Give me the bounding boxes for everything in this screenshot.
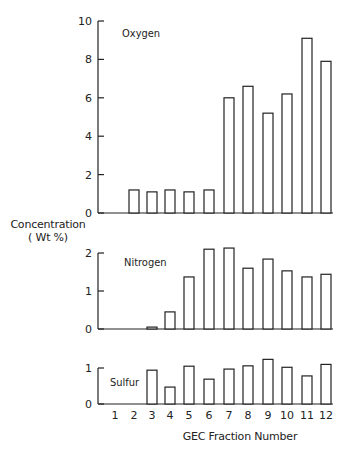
bar-sulfur-11 <box>302 376 312 404</box>
panel-oxygen: 0246810Oxygen <box>78 15 333 220</box>
y-tick-label: 0 <box>85 398 92 411</box>
x-tick-label: 11 <box>300 409 314 422</box>
panel-sulfur: 01Sulfur <box>85 359 333 411</box>
y-axis-label: Concentration ( Wt %) <box>8 218 88 244</box>
bar-oxygen-3 <box>147 192 157 213</box>
bar-oxygen-10 <box>282 94 292 213</box>
bar-nitrogen-3 <box>147 327 157 329</box>
bar-nitrogen-8 <box>243 268 253 329</box>
bar-oxygen-2 <box>129 190 139 213</box>
bar-oxygen-9 <box>263 113 273 213</box>
bar-nitrogen-11 <box>302 277 312 329</box>
x-tick-label: 9 <box>265 409 272 422</box>
x-tick-label: 6 <box>206 409 213 422</box>
panel-nitrogen: 012Nitrogen <box>85 247 333 336</box>
y-tick-label: 1 <box>85 285 92 298</box>
x-tick-labels: 123456789101112 <box>112 409 334 422</box>
y-axis-label-line2: ( Wt %) <box>8 231 88 244</box>
x-tick-label: 5 <box>186 409 193 422</box>
y-tick-label: 8 <box>85 53 92 66</box>
bar-nitrogen-5 <box>184 277 194 329</box>
bar-oxygen-8 <box>243 86 253 213</box>
bar-oxygen-12 <box>321 61 331 213</box>
bar-sulfur-9 <box>263 359 273 404</box>
y-tick-label: 10 <box>78 15 92 28</box>
bar-sulfur-12 <box>321 364 331 404</box>
panel-label: Sulfur <box>110 376 140 389</box>
x-tick-label: 12 <box>319 409 333 422</box>
bar-nitrogen-7 <box>224 248 234 329</box>
bar-nitrogen-9 <box>263 259 273 329</box>
panel-label: Nitrogen <box>124 256 167 269</box>
y-tick-label: 2 <box>85 169 92 182</box>
y-tick-label: 2 <box>85 247 92 260</box>
bar-oxygen-7 <box>224 98 234 213</box>
bar-sulfur-6 <box>204 379 214 404</box>
panel-label: Oxygen <box>122 27 160 40</box>
bar-sulfur-4 <box>165 387 175 404</box>
y-tick-label: 1 <box>85 362 92 375</box>
bar-oxygen-11 <box>302 38 312 213</box>
bar-nitrogen-4 <box>165 312 175 329</box>
bar-oxygen-5 <box>184 192 194 213</box>
x-tick-label: 7 <box>226 409 233 422</box>
bar-sulfur-5 <box>184 366 194 404</box>
x-tick-label: 1 <box>112 409 119 422</box>
bar-sulfur-10 <box>282 367 292 404</box>
x-tick-label: 4 <box>167 409 174 422</box>
bar-oxygen-4 <box>165 190 175 213</box>
bar-sulfur-3 <box>147 370 157 404</box>
y-tick-label: 0 <box>85 323 92 336</box>
x-axis-label: GEC Fraction Number <box>160 430 320 443</box>
x-tick-label: 8 <box>245 409 252 422</box>
bar-nitrogen-6 <box>204 249 214 329</box>
bar-sulfur-8 <box>243 366 253 404</box>
y-tick-label: 4 <box>85 130 92 143</box>
y-axis-label-line1: Concentration <box>8 218 88 231</box>
x-tick-label: 10 <box>280 409 294 422</box>
x-tick-label: 3 <box>149 409 156 422</box>
y-tick-label: 6 <box>85 92 92 105</box>
bar-sulfur-7 <box>224 369 234 404</box>
x-tick-label: 2 <box>131 409 138 422</box>
bar-nitrogen-10 <box>282 271 292 329</box>
bar-nitrogen-12 <box>321 274 331 329</box>
bar-oxygen-6 <box>204 190 214 213</box>
